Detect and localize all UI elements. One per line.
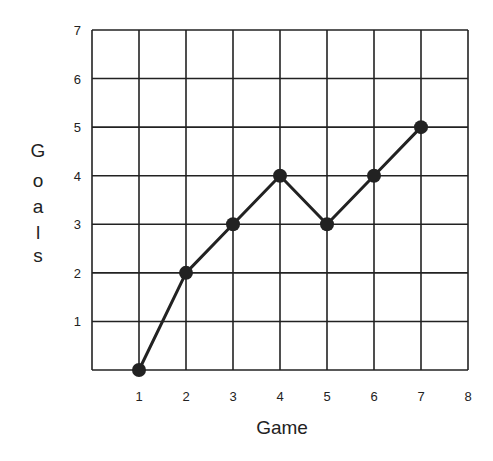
x-tick-label: 3 [229, 389, 236, 404]
x-tick-label: 2 [182, 389, 189, 404]
x-tick-label: 8 [464, 389, 471, 404]
y-tick-label: 3 [74, 217, 81, 232]
y-axis-title-letter: l [30, 222, 46, 244]
axis-ticks: 123456781234567 [74, 23, 472, 404]
chart-grid [92, 30, 468, 370]
y-axis-title-letter: s [30, 245, 46, 267]
data-point-marker [273, 169, 287, 183]
y-axis-title-letter: o [30, 170, 46, 192]
y-axis-title-letter: G [30, 140, 46, 162]
x-tick-label: 5 [323, 389, 330, 404]
x-axis-title: Game [256, 417, 308, 438]
y-tick-label: 5 [74, 120, 81, 135]
x-tick-label: 6 [370, 389, 377, 404]
y-tick-label: 6 [74, 72, 81, 87]
data-point-marker [132, 363, 146, 377]
data-point-marker [414, 120, 428, 134]
y-tick-label: 1 [74, 314, 81, 329]
x-tick-label: 4 [276, 389, 283, 404]
line-chart: 123456781234567 Game [0, 0, 493, 461]
data-point-marker [367, 169, 381, 183]
data-point-marker [179, 266, 193, 280]
y-tick-label: 2 [74, 266, 81, 281]
x-tick-label: 1 [135, 389, 142, 404]
y-axis-title-letter: a [30, 196, 46, 218]
x-tick-label: 7 [417, 389, 424, 404]
data-point-marker [320, 217, 334, 231]
y-tick-label: 4 [74, 169, 81, 184]
data-point-marker [226, 217, 240, 231]
y-tick-label: 7 [74, 23, 81, 38]
